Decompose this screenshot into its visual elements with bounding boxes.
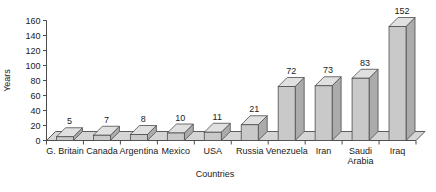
bar-front-face (56, 137, 73, 141)
y-tick-label: 40 (30, 106, 40, 116)
x-tick-label: Canada (86, 146, 118, 156)
x-tick-label: Iraq (390, 146, 406, 156)
bar-value-label: 21 (249, 104, 259, 114)
bar-value-label: 7 (104, 115, 109, 125)
x-tick-label: G. Britain (46, 146, 84, 156)
bar-front-face (241, 125, 258, 141)
bar-value-label: 72 (286, 66, 296, 76)
x-tick-label: Iran (316, 146, 332, 156)
x-tick-label: Venezuela (266, 146, 308, 156)
bar-front-face (93, 135, 110, 140)
x-tick-label: Russia (236, 146, 264, 156)
bar-value-label: 73 (323, 65, 333, 75)
bar-value-label: 11 (213, 112, 222, 122)
bar-front-face (315, 86, 332, 141)
bar-chart: 020406080100120140160Years57810112172738… (0, 0, 436, 192)
bar-side-face (369, 69, 378, 140)
x-tick-label: Argentina (120, 146, 159, 156)
bar-group: 83 (352, 58, 378, 141)
x-axis-title: Countries (196, 169, 235, 179)
x-tick-label: Saudi (349, 146, 372, 156)
y-tick-label: 120 (25, 46, 40, 56)
bar-value-label: 83 (360, 58, 370, 68)
bar-value-label: 8 (141, 114, 146, 124)
bar-value-label: 10 (175, 113, 185, 123)
bar-side-face (295, 78, 304, 141)
bar-group: 73 (315, 65, 341, 140)
bar-group: 152 (389, 6, 415, 141)
y-tick-label: 100 (25, 61, 40, 71)
x-axis-labels: G. BritainCanadaArgentinaMexicoUSARussia… (46, 146, 405, 166)
bar-front-face (278, 87, 295, 141)
bar-side-face (332, 77, 341, 141)
bar-group: 72 (278, 66, 304, 141)
y-tick-label: 60 (30, 91, 40, 101)
x-tick-label: USA (204, 146, 223, 156)
y-tick-label: 80 (30, 76, 40, 86)
bar-front-face (167, 133, 184, 141)
y-tick-label: 160 (25, 16, 40, 26)
x-tick-label: Arabia (348, 156, 374, 166)
bar-front-face (130, 135, 147, 141)
chart-canvas: 020406080100120140160Years57810112172738… (0, 0, 436, 192)
y-tick-label: 0 (35, 136, 40, 146)
y-axis-title: Years (2, 69, 12, 92)
x-tick-label: Mexico (162, 146, 191, 156)
y-tick-label: 20 (30, 121, 40, 131)
bar-value-label: 152 (395, 6, 410, 16)
y-axis-ticks: 020406080100120140160 (25, 16, 46, 146)
y-tick-label: 140 (25, 31, 40, 41)
bar-front-face (204, 132, 221, 140)
bar-front-face (352, 78, 369, 140)
bar-value-label: 5 (67, 116, 72, 126)
bar-front-face (389, 27, 406, 141)
x-axis-ticks (47, 141, 417, 145)
bar-side-face (406, 18, 415, 141)
bar-group: 21 (241, 104, 267, 140)
